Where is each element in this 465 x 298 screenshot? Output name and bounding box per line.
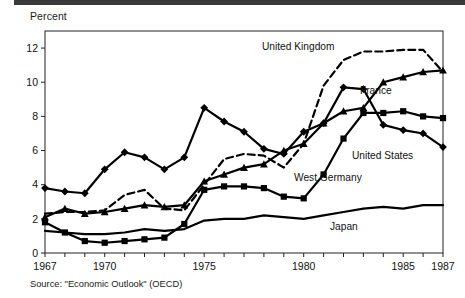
series-label-japan: Japan bbox=[330, 221, 358, 232]
y-tick-label: 8 bbox=[32, 110, 38, 122]
data-point-marker bbox=[400, 108, 406, 114]
data-point-marker bbox=[141, 236, 147, 242]
series-annotations: United KingdomFranceUnited StatesWest Ge… bbox=[262, 41, 413, 232]
data-point-marker bbox=[340, 135, 346, 141]
data-point-marker bbox=[181, 221, 187, 227]
data-point-marker bbox=[399, 126, 407, 134]
data-point-marker bbox=[360, 110, 366, 116]
y-tick-label: 6 bbox=[32, 144, 38, 156]
series-label-west-germany: West Germany bbox=[294, 172, 363, 183]
series-united-states bbox=[41, 83, 447, 197]
series-label-united-kingdom: United Kingdom bbox=[262, 41, 335, 52]
data-series bbox=[41, 50, 447, 246]
y-tick-label: 4 bbox=[32, 178, 38, 190]
data-point-marker bbox=[42, 219, 48, 225]
data-point-marker bbox=[61, 188, 69, 196]
data-point-marker bbox=[122, 238, 128, 244]
line-chart-plot: 024681012196719701975198019851987 United… bbox=[0, 0, 465, 298]
y-tick-label: 2 bbox=[32, 213, 38, 225]
data-point-marker bbox=[221, 183, 227, 189]
x-tick-label: 1967 bbox=[33, 260, 57, 272]
x-tick-label: 1975 bbox=[193, 260, 217, 272]
data-point-marker bbox=[261, 185, 267, 191]
data-point-marker bbox=[161, 235, 167, 241]
data-point-marker bbox=[241, 183, 247, 189]
data-point-marker bbox=[281, 194, 287, 200]
series-line bbox=[45, 87, 443, 193]
y-tick-label: 0 bbox=[32, 247, 38, 259]
x-tick-label: 1985 bbox=[392, 260, 416, 272]
x-tick-label: 1987 bbox=[431, 260, 455, 272]
data-point-marker bbox=[41, 184, 49, 192]
data-point-marker bbox=[102, 240, 108, 246]
data-point-marker bbox=[380, 110, 386, 116]
y-tick-label: 12 bbox=[26, 42, 38, 54]
x-tick-label: 1970 bbox=[93, 260, 117, 272]
data-point-marker bbox=[201, 187, 207, 193]
chart-figure: Percent 02468101219671970197519801985198… bbox=[0, 0, 465, 298]
data-point-marker bbox=[440, 115, 446, 121]
series-label-france: France bbox=[360, 85, 392, 96]
series-label-united-states: United States bbox=[352, 150, 413, 161]
data-point-marker bbox=[420, 113, 426, 119]
y-tick-label: 10 bbox=[26, 76, 38, 88]
data-point-marker bbox=[82, 238, 88, 244]
source-note: Source: "Economic Outlook" (OECD) bbox=[30, 279, 182, 289]
data-point-marker bbox=[301, 195, 307, 201]
x-tick-label: 1980 bbox=[292, 260, 316, 272]
